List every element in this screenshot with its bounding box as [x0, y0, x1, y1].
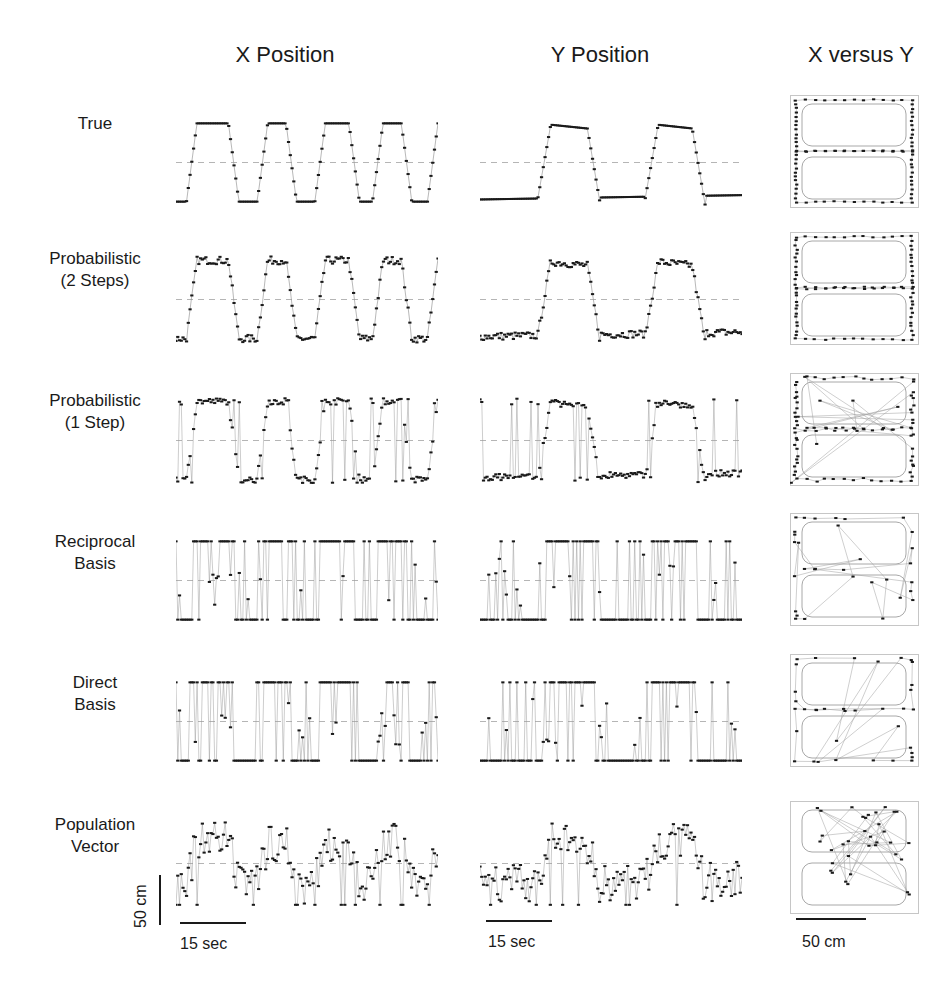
vertical-scale-label: 50 cm [132, 884, 150, 928]
x-time-scale-label: 15 sec [180, 935, 227, 953]
y-time-scale-label: 15 sec [488, 933, 535, 951]
scale-bars [0, 0, 950, 982]
xy-scale-label: 50 cm [802, 933, 846, 951]
